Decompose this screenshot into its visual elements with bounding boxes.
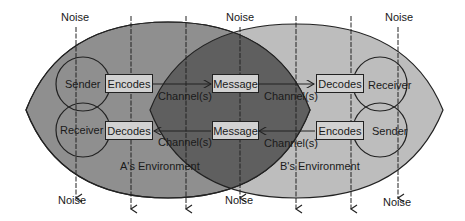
a-environment-label: A's Environment: [120, 160, 200, 172]
b-decodes-box: Decodes: [316, 74, 364, 93]
b-sender-label: Sender: [372, 125, 407, 137]
noise-label-bottom-left: Noise: [58, 194, 86, 206]
b-encodes-box: Encodes: [316, 121, 364, 140]
a-sender-label: Sender: [65, 78, 100, 90]
a-encodes-box: Encodes: [105, 74, 153, 93]
noise-label-bottom-right: Noise: [383, 196, 411, 208]
b-environment-label: B's Environment: [280, 160, 360, 172]
channel-label-bottom-right: Channel(s): [264, 137, 318, 149]
noise-label-top-right: Noise: [385, 11, 413, 23]
channel-label-bottom-left: Channel(s): [158, 136, 212, 148]
noise-label-bottom-center: Noise: [225, 194, 253, 206]
b-receiver-label: Receiver: [368, 79, 411, 91]
channel-label-top-left: Channel(s): [158, 90, 212, 102]
communication-model-diagram: Noise Noise Noise Noise Noise Noise Send…: [0, 0, 465, 221]
channel-label-top-right: Channel(s): [264, 90, 318, 102]
message-box-bottom: Message: [212, 121, 259, 140]
noise-label-top-left: Noise: [61, 11, 89, 23]
a-decodes-box: Decodes: [105, 121, 153, 140]
diagram-shapes: [0, 0, 465, 221]
noise-label-top-center: Noise: [226, 11, 254, 23]
message-box-top: Message: [212, 74, 259, 93]
a-receiver-label: Receiver: [60, 124, 103, 136]
